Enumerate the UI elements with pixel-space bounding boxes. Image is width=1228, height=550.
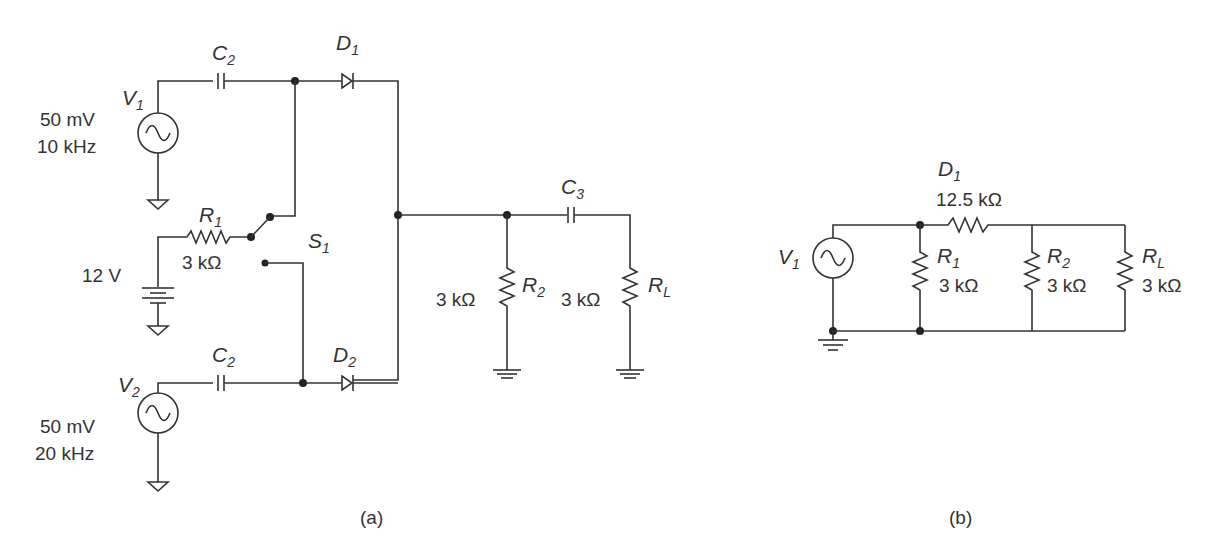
battery-12v bbox=[142, 288, 174, 335]
r2-b-label: R2 bbox=[1047, 244, 1070, 271]
r1-b-value: 3 kΩ bbox=[939, 275, 979, 296]
caption-a: (a) bbox=[360, 507, 383, 528]
capacitor-c2-bottom bbox=[218, 375, 342, 391]
ground-icon bbox=[148, 326, 168, 335]
junction-dot bbox=[299, 379, 307, 387]
rl-b-label: RL bbox=[1142, 244, 1165, 271]
s1-label: S1 bbox=[308, 229, 330, 256]
capacitor-c2-top bbox=[218, 73, 295, 89]
figure-a: V1 50 mV 10 kHz C2 D1 R1 3 kΩ bbox=[35, 31, 671, 528]
d2-label: D2 bbox=[333, 343, 356, 370]
v2-label: V2 bbox=[118, 373, 140, 400]
c2-bottom-label: C2 bbox=[212, 343, 235, 370]
figure-b: V1 D1 12.5 kΩ R1 3 kΩ R2 3 kΩ RL 3 kΩ (b… bbox=[778, 157, 1182, 528]
c3-label: C3 bbox=[561, 175, 584, 202]
d1-b-label: D1 bbox=[938, 157, 961, 184]
circuit-diagram: V1 50 mV 10 kHz C2 D1 R1 3 kΩ bbox=[0, 0, 1228, 550]
r1-label: R1 bbox=[199, 203, 222, 230]
c2-top-label: C2 bbox=[212, 41, 235, 68]
resistor-r1-b bbox=[913, 225, 927, 331]
caption-b: (b) bbox=[949, 507, 972, 528]
v1-amplitude: 50 mV bbox=[40, 109, 95, 130]
v2-frequency: 20 kHz bbox=[35, 443, 94, 464]
resistor-r2-b bbox=[1025, 225, 1039, 331]
resistor-r2 bbox=[493, 215, 521, 378]
ground-icon bbox=[148, 482, 168, 491]
diode-d2 bbox=[342, 375, 398, 391]
rl-b-value: 3 kΩ bbox=[1142, 275, 1182, 296]
rl-label: RL bbox=[648, 273, 671, 300]
diode-d1 bbox=[295, 73, 398, 380]
v2-amplitude: 50 mV bbox=[40, 416, 95, 437]
source-v2 bbox=[138, 383, 213, 491]
v1-b-label: V1 bbox=[778, 245, 800, 272]
battery-value: 12 V bbox=[82, 265, 121, 286]
d1-label: D1 bbox=[336, 31, 359, 58]
r1-value: 3 kΩ bbox=[182, 252, 222, 273]
resistor-rl-b bbox=[1118, 225, 1132, 331]
junction-dot bbox=[916, 327, 924, 335]
v1-frequency: 10 kHz bbox=[37, 136, 96, 157]
ground-icon bbox=[148, 200, 168, 209]
switch-s1[interactable] bbox=[247, 213, 303, 383]
source-v1 bbox=[138, 81, 213, 209]
v1-label: V1 bbox=[122, 86, 144, 113]
r2-b-value: 3 kΩ bbox=[1047, 275, 1087, 296]
resistor-d1-equivalent bbox=[920, 218, 1125, 232]
rl-value: 3 kΩ bbox=[561, 289, 601, 310]
d1-b-value: 12.5 kΩ bbox=[936, 189, 1002, 210]
r1-b-label: R1 bbox=[937, 244, 960, 271]
r2-value: 3 kΩ bbox=[436, 289, 476, 310]
r2-label: R2 bbox=[522, 273, 545, 300]
